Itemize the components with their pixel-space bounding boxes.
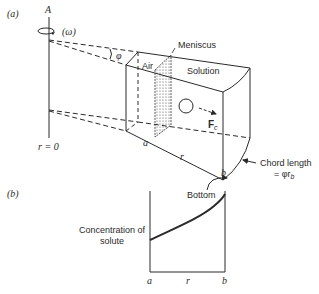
box-left-bottom-edge <box>126 122 138 131</box>
air-label: Air <box>142 61 153 71</box>
force-arrow <box>199 108 216 114</box>
graph-x-b: b <box>222 275 227 286</box>
graph-x-r: r <box>186 275 190 286</box>
r0-label: r = 0 <box>38 141 59 152</box>
bottom-curve-top <box>223 68 250 92</box>
solution-label: Solution <box>187 66 220 76</box>
upper-ray-top <box>49 40 138 52</box>
phi-angle-arc <box>110 49 112 59</box>
panel-b-label: (b) <box>7 188 19 200</box>
force-label: Fc <box>208 119 218 131</box>
graph-ylabel-line2: solute <box>100 236 124 246</box>
chord-label-line1: Chord length <box>260 158 312 168</box>
diagram-canvas: (a) A (ω) φ Meniscus Air Solution Fc r =… <box>0 0 319 294</box>
bottom-label: Bottom <box>187 190 216 200</box>
lower-ray-top <box>49 110 138 122</box>
phi-label: φ <box>116 50 122 61</box>
axis-label-A: A <box>44 4 52 15</box>
bottom-curve-lower <box>223 138 250 180</box>
box-left-top-edge <box>126 52 138 65</box>
upper-ray-bottom <box>49 41 126 65</box>
b-label: b <box>221 167 226 178</box>
box-bottom-front-edge <box>126 131 223 180</box>
chord-arrow <box>243 160 256 163</box>
graph-ylabel-line1: Concentration of <box>79 225 146 235</box>
lower-ray-bottom <box>49 111 126 131</box>
omega-label: (ω) <box>62 26 76 38</box>
meniscus-leader <box>172 48 175 53</box>
graph-x-a: a <box>147 275 152 286</box>
a-label: a <box>143 137 148 148</box>
chord-label-line2: = φrb <box>274 169 295 180</box>
meniscus-label: Meniscus <box>178 40 217 50</box>
particle <box>179 99 193 113</box>
r-label: r <box>180 151 184 162</box>
panel-a-label: (a) <box>7 8 19 20</box>
concentration-curve <box>150 194 225 240</box>
